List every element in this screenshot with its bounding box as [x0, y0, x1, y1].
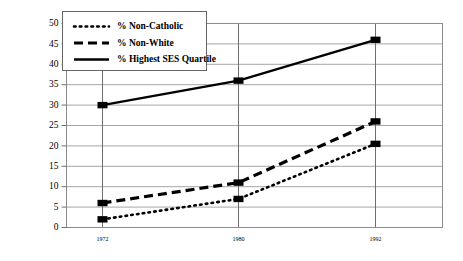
line-chart: 05101520253035404550 197219801992 % Non-… [0, 0, 463, 261]
y-axis-tick-label: 30 [49, 100, 59, 110]
x-axis-tick-label: 1992 [370, 236, 382, 242]
data-point-marker [234, 196, 244, 202]
data-point-marker [234, 179, 244, 185]
chart-legend: % Non-Catholic% Non-White% Highest SES Q… [63, 12, 216, 71]
x-axis-tick-label: 1980 [233, 236, 245, 242]
chart-svg: 05101520253035404550 197219801992 % Non-… [0, 0, 463, 261]
data-point-marker [371, 37, 381, 43]
y-axis-tick-label: 5 [54, 202, 59, 212]
y-axis-tick-label: 40 [49, 59, 59, 69]
data-point-marker [371, 118, 381, 124]
data-point-marker [98, 200, 108, 206]
data-point-marker [98, 216, 108, 222]
y-axis-tick-label: 20 [49, 141, 59, 151]
y-axis-tick-label: 50 [49, 18, 59, 28]
y-axis-tick-label: 10 [49, 181, 59, 191]
legend-label-3: % Highest SES Quartile [117, 54, 216, 64]
x-axis-tick-label: 1972 [97, 236, 109, 242]
y-axis-tick-label: 25 [49, 120, 59, 130]
y-axis-tick-label: 0 [54, 222, 59, 232]
legend-label-2: % Non-White [117, 38, 174, 48]
y-axis-tick-label: 45 [49, 39, 59, 49]
y-axis-tick-label: 15 [49, 161, 59, 171]
y-axis-tick-label: 35 [49, 79, 59, 89]
data-point-marker [98, 102, 108, 108]
data-point-marker [234, 77, 244, 83]
legend-label-1: % Non-Catholic [117, 21, 183, 31]
data-point-marker [371, 141, 381, 147]
